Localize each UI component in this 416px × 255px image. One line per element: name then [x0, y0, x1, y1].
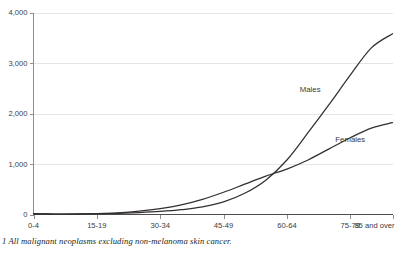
- x-axis-label-60-64: 60-64: [277, 221, 296, 230]
- x-axis-label-30-34: 30-34: [150, 221, 169, 230]
- y-axis-label-3000: 3,000: [8, 59, 27, 68]
- series-lines: [34, 34, 393, 214]
- x-axis-label-85-and-over: 85 and over: [354, 221, 395, 230]
- x-axis-tick-labels: 0-415-1930-3445-4960-6475-7985 and over: [28, 221, 395, 230]
- y-axis-tick-labels: 01,0002,0003,0004,000: [8, 8, 27, 219]
- y-axis-label-4000: 4,000: [8, 8, 27, 17]
- chart-footnote: 1 All malignant neoplasms excluding non-…: [2, 236, 232, 246]
- y-axis-label-1000: 1,000: [8, 160, 27, 169]
- cancer-incidence-line-chart: 01,0002,0003,0004,000 0-415-1930-3445-49…: [0, 0, 416, 255]
- x-axis-label-45-49: 45-49: [214, 221, 233, 230]
- series-label-males: Males: [300, 85, 321, 94]
- y-axis-label-0: 0: [23, 210, 27, 219]
- axes: [30, 13, 394, 219]
- series-line-males: [34, 34, 393, 214]
- y-axis-label-2000: 2,000: [8, 109, 27, 118]
- chart-canvas: 01,0002,0003,0004,000 0-415-1930-3445-49…: [0, 0, 416, 255]
- series-label-females: Females: [335, 135, 365, 144]
- x-axis-label-15-19: 15-19: [87, 221, 106, 230]
- x-axis-label-0-4: 0-4: [28, 221, 39, 230]
